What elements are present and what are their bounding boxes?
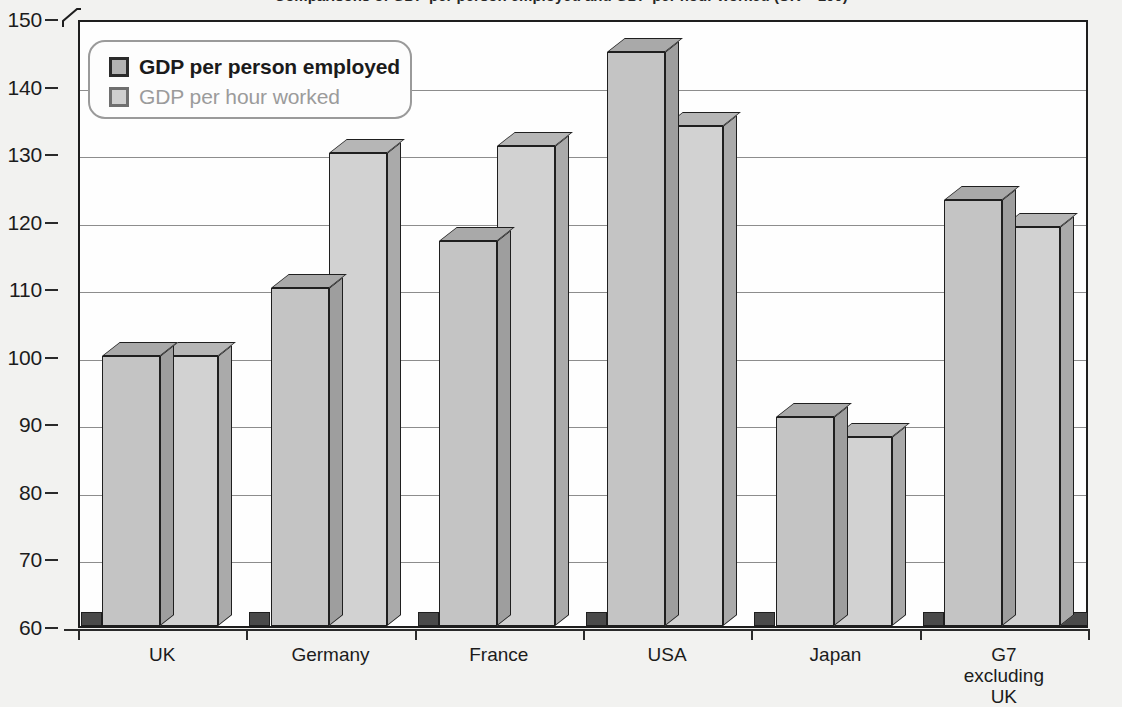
bar-side-3d xyxy=(892,426,906,626)
x-axis-label-usa: USA xyxy=(648,644,687,665)
legend-item-gdp-per-hour-worked: GDP per hour worked xyxy=(109,85,340,109)
y-axis-tick-mark xyxy=(45,19,58,21)
x-axis-label-uk: UK xyxy=(149,644,175,665)
x-axis-tick-mark xyxy=(751,629,753,640)
bar-face xyxy=(102,356,160,626)
y-axis-tick-label: 80 xyxy=(19,481,42,505)
y-axis: 15014013012011010090807060 xyxy=(0,0,62,698)
y-axis-tick-mark xyxy=(45,222,58,224)
bar-side-3d xyxy=(160,345,174,626)
y-axis-tick-label: 100 xyxy=(8,346,42,370)
bar-side-3d xyxy=(723,115,737,626)
bar-face xyxy=(944,200,1002,626)
chart-floor-strip xyxy=(923,612,944,626)
x-axis-tick-mark xyxy=(583,629,585,640)
bar-side-3d xyxy=(329,277,343,626)
y-axis-tick-label: 90 xyxy=(19,413,42,437)
y-axis-tick-label: 60 xyxy=(19,616,42,640)
x-axis-tick-mark xyxy=(415,629,417,640)
y-axis-tick-mark xyxy=(45,492,58,494)
bar-face xyxy=(271,288,329,626)
x-axis-tick-mark xyxy=(920,629,922,640)
chart-title-clipped: Comparisons of GDP per person employed a… xyxy=(0,0,1122,7)
x-axis-tick-mark xyxy=(1088,629,1090,640)
y-axis-tick-label: 150 xyxy=(8,8,42,32)
bar-side-3d xyxy=(665,41,679,626)
legend-label-series-2: GDP per hour worked xyxy=(139,85,340,109)
x-axis-label-france: France xyxy=(469,644,528,665)
legend-item-gdp-per-person-employed: GDP per person employed xyxy=(109,55,400,79)
chart-legend: GDP per person employed GDP per hour wor… xyxy=(88,40,412,119)
y-axis-tick-label: 110 xyxy=(9,278,42,302)
chart-floor-strip xyxy=(754,612,775,626)
y-axis-tick-mark xyxy=(45,627,58,629)
x-axis-tick-mark xyxy=(246,629,248,640)
chart-floor-strip xyxy=(586,612,607,626)
x-axis-label-g7-excluding-uk: G7 excluding UK xyxy=(964,644,1044,707)
bar-side-3d xyxy=(555,135,569,626)
bar-side-3d xyxy=(1060,216,1074,626)
y-axis-tick-label: 130 xyxy=(8,143,42,167)
y-axis-tick-mark xyxy=(45,154,58,156)
bar-face xyxy=(439,241,497,626)
y-axis-tick-mark xyxy=(45,289,58,291)
x-axis-label-germany: Germany xyxy=(291,644,369,665)
legend-label-series-1: GDP per person employed xyxy=(139,55,400,79)
chart-floor-strip xyxy=(81,612,102,626)
x-axis-line xyxy=(64,629,1090,631)
x-axis-tick-mark xyxy=(78,629,80,640)
legend-swatch-series-2-icon xyxy=(109,87,129,107)
bar-face xyxy=(607,52,665,626)
y-axis-tick-mark xyxy=(45,559,58,561)
y-axis-tick-label: 140 xyxy=(8,76,42,100)
legend-swatch-series-1-icon xyxy=(109,57,129,77)
chart-floor-strip xyxy=(418,612,439,626)
bar-face xyxy=(776,417,834,626)
chart-title: Comparisons of GDP per person employed a… xyxy=(274,0,847,4)
y-axis-tick-label: 70 xyxy=(19,548,42,572)
bar-side-3d xyxy=(834,406,848,626)
bar-side-3d xyxy=(387,142,401,626)
y-axis-tick-mark xyxy=(45,357,58,359)
bar-side-3d xyxy=(218,345,232,626)
y-axis-tick-mark xyxy=(45,424,58,426)
y-axis-tick-mark xyxy=(45,87,58,89)
y-axis-tick-label: 120 xyxy=(8,211,42,235)
bar-side-3d xyxy=(1002,189,1016,626)
bar-side-3d xyxy=(497,230,511,626)
x-axis-label-japan: Japan xyxy=(810,644,862,665)
chart-floor-strip xyxy=(249,612,270,626)
